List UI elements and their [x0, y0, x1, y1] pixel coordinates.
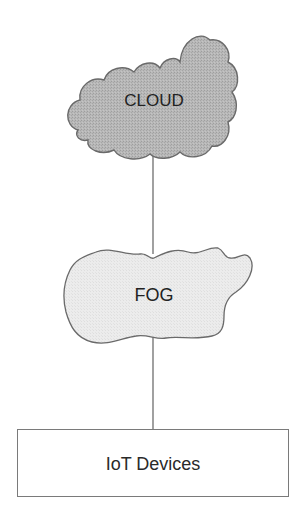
fog-computing-diagram: CLOUD FOG IoT Devices	[0, 0, 305, 523]
iot-devices-box: IoT Devices	[17, 429, 289, 497]
cloud-label: CLOUD	[104, 92, 204, 109]
fog-label: FOG	[104, 286, 204, 304]
iot-devices-label: IoT Devices	[18, 455, 288, 473]
